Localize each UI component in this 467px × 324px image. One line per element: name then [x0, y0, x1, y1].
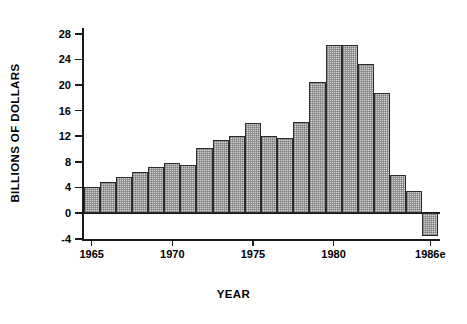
x-axis-tick-label: 1975 — [241, 248, 265, 260]
y-axis-tick-label: 28 — [59, 28, 71, 40]
x-axis-tick-label: 1965 — [79, 248, 103, 260]
x-axis-tick-label: 1986e — [415, 248, 446, 260]
y-axis-tick-label: 0 — [65, 207, 71, 219]
y-axis-title: BILLIONS OF DOLLARS — [6, 18, 24, 248]
bar — [229, 136, 245, 213]
y-axis-tick-label: 16 — [59, 105, 71, 117]
bar — [406, 191, 422, 213]
y-axis-tick: 8 — [75, 161, 82, 163]
bar — [422, 213, 438, 235]
y-axis-tick: 20 — [75, 84, 82, 86]
bar — [358, 64, 374, 213]
y-axis-tick: 24 — [75, 59, 82, 61]
bar — [277, 138, 293, 214]
y-axis-tick: 12 — [75, 135, 82, 137]
bar — [196, 148, 212, 213]
bar — [309, 82, 325, 213]
y-axis-tick: 28 — [75, 33, 82, 35]
x-axis-tick — [252, 239, 254, 246]
y-axis-tick-label: 12 — [59, 130, 71, 142]
y-axis-tick-label: 20 — [59, 79, 71, 91]
x-axis-title: YEAR — [0, 288, 467, 300]
y-axis-tick-label: -4 — [61, 233, 71, 245]
x-axis-tick — [91, 239, 93, 246]
bar — [213, 140, 229, 213]
plot-area: -40481216202428 19651970197519801986e — [82, 28, 440, 240]
y-axis-tick-label: 24 — [59, 53, 71, 65]
bar — [148, 167, 164, 213]
x-axis-spine — [82, 239, 440, 241]
bar — [164, 163, 180, 214]
bar — [342, 45, 358, 213]
bar — [116, 177, 132, 213]
x-axis-tick — [172, 239, 174, 246]
x-axis-tick — [333, 239, 335, 246]
bar — [374, 93, 390, 213]
bar — [100, 182, 116, 213]
x-axis-tick — [430, 239, 432, 246]
bar — [132, 172, 148, 213]
y-axis-tick-label: 4 — [65, 181, 71, 193]
x-axis-tick-label: 1980 — [321, 248, 345, 260]
y-axis-tick: 16 — [75, 110, 82, 112]
y-axis-tick-label: 8 — [65, 156, 71, 168]
bar — [245, 123, 261, 213]
y-axis-tick: 0 — [75, 212, 82, 214]
x-axis-tick-label: 1970 — [160, 248, 184, 260]
bar — [390, 175, 406, 213]
bar — [84, 187, 100, 213]
chart-figure: BILLIONS OF DOLLARS -40481216202428 1965… — [0, 0, 467, 324]
bar — [180, 165, 196, 213]
bar — [293, 122, 309, 214]
y-axis-tick: -4 — [75, 238, 82, 240]
y-axis-tick: 4 — [75, 187, 82, 189]
bar — [326, 45, 342, 213]
y-axis-title-text: BILLIONS OF DOLLARS — [9, 63, 21, 202]
bar — [261, 136, 277, 213]
